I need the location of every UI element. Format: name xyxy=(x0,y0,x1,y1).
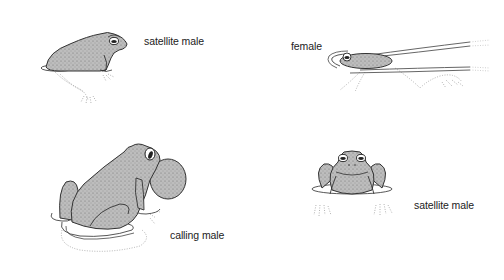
eye-icon xyxy=(357,154,366,161)
frog-mating-tactics-figure: satellite male female calling male satel… xyxy=(0,0,504,280)
label-calling-male: calling male xyxy=(170,229,224,241)
calling-male-frog xyxy=(51,144,186,251)
illustration-canvas xyxy=(0,0,504,280)
label-female: female xyxy=(291,40,322,52)
label-satellite-male-side: satellite male xyxy=(144,35,204,47)
satellite-male-side-frog xyxy=(41,33,127,105)
satellite-male-front-frog xyxy=(312,151,392,216)
eye-icon xyxy=(145,148,155,160)
eye-icon xyxy=(339,154,348,161)
female-swimming-frog xyxy=(328,40,490,92)
label-satellite-male-front: satellite male xyxy=(414,199,474,211)
submerged-legs xyxy=(55,72,114,104)
eye-icon xyxy=(343,53,351,61)
